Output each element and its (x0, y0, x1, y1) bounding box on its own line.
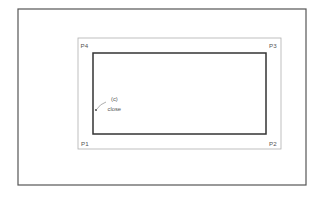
corner-label-p1: P1 (81, 140, 89, 147)
annotation-label-close: close (108, 106, 122, 112)
annotation-label-c: (c) (111, 96, 118, 102)
outer-viewport-frame (18, 9, 306, 185)
corner-label-p4: P4 (81, 42, 89, 49)
selection-window-frame (78, 38, 281, 149)
drawn-rectangle (93, 53, 266, 134)
annotation-leader-line (97, 102, 107, 110)
diagram-canvas: P4 P3 P1 P2 (c) close (0, 0, 320, 197)
corner-label-p3: P3 (269, 42, 277, 49)
corner-label-p2: P2 (269, 140, 277, 147)
